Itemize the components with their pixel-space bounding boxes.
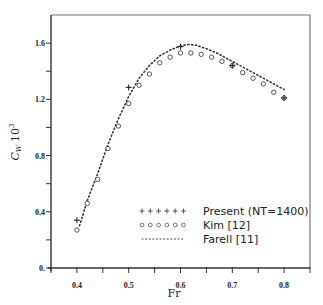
series-present-plus-markers [74,44,287,224]
x-tick-label: 0.5 [124,281,134,290]
kim-point [75,228,79,232]
kim-point [137,83,141,87]
present-point [74,217,80,223]
x-tick-label: 0.7 [227,281,237,290]
kim-point [85,201,89,205]
kim-point [95,177,99,181]
present-point [229,63,235,69]
legend-label-farell: Farell [11] [203,233,258,246]
farell-curve [80,45,285,226]
kim-point [116,124,120,128]
kim-point [272,90,276,94]
legend-symbol-circle [140,223,185,227]
kim-point [261,82,265,86]
kim-point [147,72,151,76]
kim-point [240,70,244,74]
legend-circle [140,223,144,227]
y-title-exp: 3 [8,123,16,127]
legend-circle [148,223,152,227]
series-farell-dotted-line [80,45,285,226]
kim-point [127,101,131,105]
y-tick-label: 1.2 [35,95,45,104]
y-axis-title: CW103 [8,123,23,160]
present-point [281,95,287,101]
legend-circle [173,223,177,227]
x-tick-label: 0.4 [72,281,82,290]
kim-point [106,146,110,150]
legend-circle [165,223,169,227]
legend-label-present: Present (NT=1400) [203,205,309,218]
x-axis-ticks: 0.40.50.60.70.8 [51,267,310,290]
kim-point [189,51,193,55]
kim-point [199,52,203,56]
present-point [126,84,132,90]
y-title-factor: 10 [9,128,22,142]
legend-label-kim: Kim [12] [203,219,250,232]
y-tick-label: 1.6 [35,39,45,48]
y-tick-label: 0.4 [35,208,45,217]
kim-point [158,61,162,65]
kim-point [220,59,224,63]
kim-point [168,55,172,59]
legend-symbol-plus [140,209,187,214]
legend-circle [182,223,186,227]
kim-point [178,51,182,55]
y-tick-label: 0.8 [35,152,45,161]
x-tick-label: 0.8 [279,281,289,290]
legend: Present (NT=1400) Kim [12] Farell [11] [140,205,309,246]
kim-point [251,76,255,80]
y-axis-ticks: 0.0.40.81.21.6 [35,39,51,273]
y-tick-label: 0. [39,264,45,273]
legend-circle [157,223,161,227]
y-title-sub: W [15,144,23,152]
chart: 0.40.50.60.70.8 0.0.40.81.21.6 Present (… [0,0,323,305]
present-point [178,44,184,50]
kim-point [209,55,213,59]
x-axis-title: Fr [168,287,182,300]
svg-text:CW103: CW103 [8,123,23,160]
